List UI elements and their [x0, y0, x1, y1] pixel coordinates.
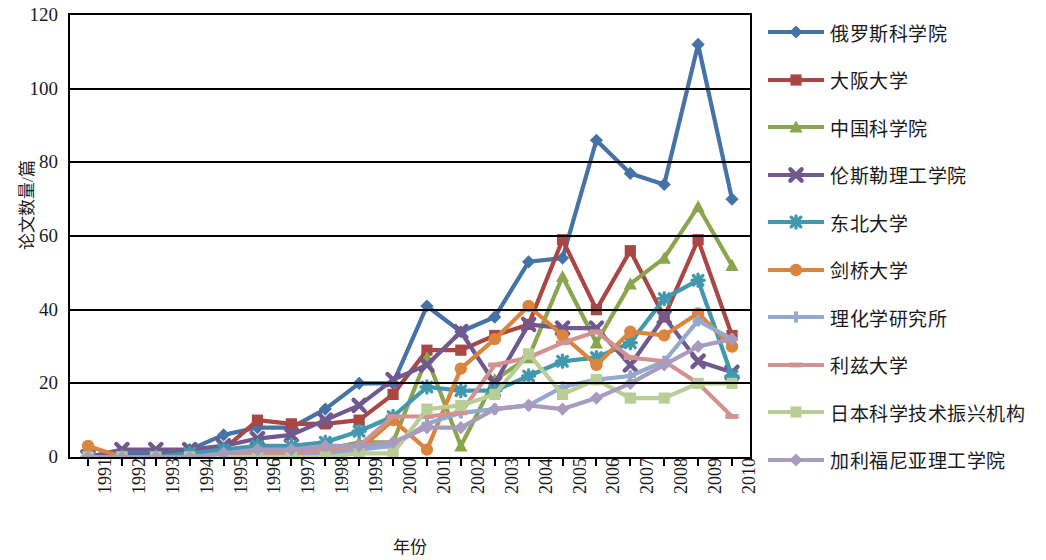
x-tick-label: 2009: [705, 458, 726, 528]
y-tick-label: 100: [16, 79, 58, 98]
x-tick-label: 2008: [671, 458, 692, 528]
x-tick-label: 2005: [570, 458, 591, 528]
legend-marker-icon: [768, 401, 824, 423]
x-tick-label: 2004: [536, 458, 557, 528]
y-tick-label: 120: [16, 5, 58, 24]
legend-label: 日本科学技术振兴机构: [830, 399, 1025, 426]
legend-label: 中国科学院: [830, 114, 928, 141]
legend-marker-icon: [768, 116, 824, 138]
legend-marker-icon: [768, 211, 824, 233]
legend-label: 利兹大学: [830, 351, 908, 378]
y-tick-label: 60: [16, 226, 58, 245]
x-tick-label: 2006: [603, 458, 624, 528]
legend-label: 东北大学: [830, 209, 908, 236]
gridline: [70, 161, 750, 163]
chart-legend: 俄罗斯科学院大阪大学中国科学院伦斯勒理工学院东北大学剑桥大学理化学研究所利兹大学…: [768, 18, 1040, 498]
legend-item-6[interactable]: 剑桥大学: [768, 256, 908, 284]
plot-area: [68, 13, 752, 459]
gridline: [70, 88, 750, 90]
x-axis-tick-labels: 1991199219931994199519961997199819992000…: [68, 462, 752, 532]
series-diamond: [81, 38, 738, 457]
chart-root: 论文数量/篇 020406080100120 19911992199319941…: [0, 0, 1046, 560]
legend-item-10[interactable]: 加利福尼亚理工学院: [768, 446, 1006, 474]
legend-label: 加利福尼亚理工学院: [830, 446, 1006, 473]
x-tick-label: 1995: [231, 458, 252, 528]
legend-marker-icon: [768, 69, 824, 91]
legend-marker-icon: [768, 449, 824, 471]
y-tick-label: 80: [16, 152, 58, 171]
legend-marker-icon: [768, 354, 824, 376]
legend-label: 大阪大学: [830, 66, 908, 93]
gridline: [70, 309, 750, 311]
legend-item-5[interactable]: 东北大学: [768, 208, 908, 236]
legend-marker-icon: [768, 164, 824, 186]
y-axis-tick-labels: 020406080100120: [10, 0, 58, 480]
x-tick-label: 2000: [400, 458, 421, 528]
x-tick-label: 2010: [739, 458, 760, 528]
legend-label: 理化学研究所: [830, 304, 947, 331]
legend-label: 俄罗斯科学院: [830, 19, 947, 46]
legend-item-4[interactable]: 伦斯勒理工学院: [768, 161, 967, 189]
legend-marker-icon: [768, 21, 824, 43]
x-tick-label: 1992: [129, 458, 150, 528]
x-tick-label: 1997: [298, 458, 319, 528]
gridline: [70, 382, 750, 384]
x-tick-label: 1991: [95, 458, 116, 528]
legend-item-2[interactable]: 大阪大学: [768, 66, 908, 94]
x-tick-label: 2001: [434, 458, 455, 528]
x-tick-label: 1999: [366, 458, 387, 528]
legend-item-1[interactable]: 俄罗斯科学院: [768, 18, 947, 46]
x-axis-title: 年份: [68, 533, 752, 558]
x-tick-label: 2007: [637, 458, 658, 528]
x-tick-label: 2002: [468, 458, 489, 528]
legend-item-3[interactable]: 中国科学院: [768, 113, 928, 141]
legend-label: 伦斯勒理工学院: [830, 161, 967, 188]
y-tick-label: 0: [16, 447, 58, 466]
legend-marker-icon: [768, 306, 824, 328]
y-tick-label: 20: [16, 373, 58, 392]
x-tick-label: 2003: [502, 458, 523, 528]
x-tick-label: 1996: [264, 458, 285, 528]
legend-item-9[interactable]: 日本科学技术振兴机构: [768, 398, 1025, 426]
x-tick-label: 1998: [332, 458, 353, 528]
x-tick-label: 1994: [197, 458, 218, 528]
gridline: [70, 235, 750, 237]
legend-item-7[interactable]: 理化学研究所: [768, 303, 947, 331]
legend-marker-icon: [768, 259, 824, 281]
x-tick-label: 1993: [163, 458, 184, 528]
legend-label: 剑桥大学: [830, 256, 908, 283]
legend-item-8[interactable]: 利兹大学: [768, 351, 908, 379]
y-tick-label: 40: [16, 300, 58, 319]
